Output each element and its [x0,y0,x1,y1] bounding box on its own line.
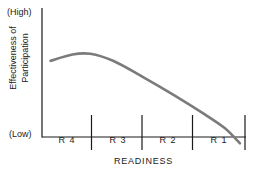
plot-area [0,0,262,179]
effectiveness-curve [51,53,240,143]
effectiveness-readiness-chart: (High) (Low) Effectiveness ofParticipati… [0,0,262,179]
